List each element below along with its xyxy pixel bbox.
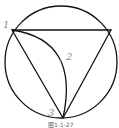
point-2-marker bbox=[60, 60, 62, 62]
figure-caption: 图1-1-27 bbox=[48, 121, 74, 128]
geometry-diagram: 1 2 3 图1-1-27 bbox=[0, 0, 119, 128]
point-label-1: 1 bbox=[3, 19, 9, 30]
point-label-2: 2 bbox=[65, 51, 72, 62]
point-label-3: 3 bbox=[48, 107, 54, 118]
